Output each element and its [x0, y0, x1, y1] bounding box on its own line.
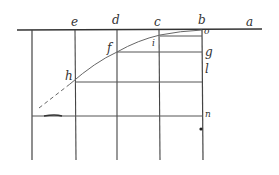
point-marker: [199, 127, 202, 130]
label-a: a: [246, 16, 253, 28]
geometric-diagram: [0, 0, 279, 175]
top-axis-line: [17, 29, 262, 30]
label-f: f: [107, 42, 111, 54]
vertical-line-c: [159, 30, 160, 160]
label-e: e: [71, 16, 78, 28]
label-g: g: [205, 46, 213, 58]
label-d: d: [112, 14, 120, 26]
vertical-line-e: [75, 30, 76, 160]
curve-dashed: [39, 84, 70, 108]
label-o: o: [204, 27, 209, 36]
vertical-line-b: [202, 30, 203, 160]
label-i: i: [152, 39, 155, 48]
label-h: h: [65, 70, 73, 82]
label-b: b: [198, 14, 206, 26]
curve-solid: [70, 30, 202, 84]
label-l: l: [205, 63, 209, 75]
label-c: c: [154, 16, 161, 28]
label-n: n: [205, 110, 211, 119]
